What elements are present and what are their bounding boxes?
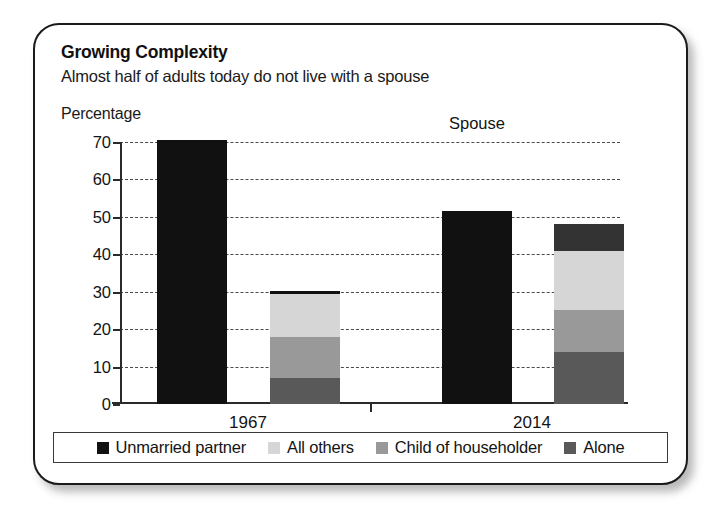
segment-2014-all-others — [554, 251, 624, 311]
ytick-mark-40 — [113, 254, 120, 256]
ytick-label-10: 10 — [93, 358, 111, 375]
ytick-label-20: 20 — [93, 321, 111, 338]
legend-item-alone[interactable]: Alone — [553, 438, 635, 457]
x-group-label-2014: 2014 — [513, 413, 551, 433]
ytick-label-30: 30 — [93, 283, 111, 300]
legend-label-all-others: All others — [287, 438, 354, 457]
bar-2014-spouse — [442, 211, 512, 404]
plot-area: 70 60 50 40 30 20 10 0 1967 — [120, 142, 620, 404]
segment-1967-all-others — [270, 294, 340, 337]
segment-2014-unmarried-partner — [554, 224, 624, 250]
legend-label-unmarried-partner: Unmarried partner — [116, 438, 247, 457]
ytick-mark-70 — [113, 142, 120, 144]
bar-2014-stack — [554, 224, 624, 404]
legend-swatch-icon-unmarried-partner — [97, 442, 109, 454]
spouse-annotation: Spouse — [449, 114, 505, 133]
segment-1967-alone — [270, 378, 340, 404]
segment-1967-child-of-householder — [270, 337, 340, 378]
legend-swatch-icon-child-of-householder — [376, 442, 388, 454]
legend-label-alone: Alone — [583, 438, 624, 457]
x-group-label-1967: 1967 — [229, 413, 267, 433]
ytick-label-40: 40 — [93, 246, 111, 263]
chart-legend: Unmarried partner All others Child of ho… — [53, 432, 668, 463]
chart-card: Growing Complexity Almost half of adults… — [33, 23, 688, 485]
bar-1967-stack — [270, 291, 340, 404]
ytick-mark-50 — [113, 217, 120, 219]
ytick-mark-10 — [113, 367, 120, 369]
x-axis-center-tick — [370, 404, 372, 412]
ytick-mark-20 — [113, 329, 120, 331]
legend-item-unmarried-partner[interactable]: Unmarried partner — [86, 438, 258, 457]
ytick-label-0: 0 — [102, 396, 111, 413]
bar-1967-spouse — [157, 140, 227, 404]
legend-swatch-icon-all-others — [268, 442, 280, 454]
y-axis-line — [120, 142, 122, 404]
legend-item-child-of-householder[interactable]: Child of householder — [365, 438, 553, 457]
legend-item-all-others[interactable]: All others — [257, 438, 365, 457]
legend-swatch-icon-alone — [564, 442, 576, 454]
chart-subtitle: Almost half of adults today do not live … — [61, 67, 429, 86]
y-axis-unit-label: Percentage — [61, 105, 141, 123]
segment-2014-alone — [554, 352, 624, 404]
chart-screenshot: Growing Complexity Almost half of adults… — [0, 0, 726, 528]
segment-1967-unmarried-partner — [270, 291, 340, 294]
ytick-label-50: 50 — [93, 209, 111, 226]
ytick-label-60: 60 — [93, 171, 111, 188]
chart-title: Growing Complexity — [61, 42, 228, 63]
ytick-mark-30 — [113, 292, 120, 294]
segment-2014-child-of-householder — [554, 310, 624, 351]
ytick-mark-0 — [113, 404, 120, 406]
ytick-mark-60 — [113, 179, 120, 181]
legend-label-child-of-householder: Child of householder — [395, 438, 542, 457]
ytick-label-70: 70 — [93, 134, 111, 151]
